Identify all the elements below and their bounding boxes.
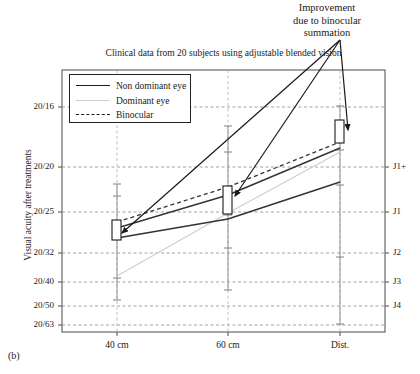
right-axis-tick-label: J1: [393, 206, 401, 216]
plot-area: [0, 0, 420, 374]
legend-label: Binocular: [116, 110, 153, 120]
y-axis-tick-label: 20/50: [10, 300, 54, 310]
data-marker-box: [335, 120, 344, 143]
annotation-arrow: [340, 40, 348, 130]
y-axis-tick-label: 20/40: [10, 276, 54, 286]
panel-label: (b): [8, 350, 20, 361]
legend-line-solid-icon: [76, 80, 110, 92]
legend-line-light-icon: [76, 95, 110, 107]
x-axis-tick-label: 60 cm: [198, 340, 258, 350]
series-line-dashed: [228, 142, 340, 187]
legend-item-binocular: Binocular: [76, 107, 153, 123]
right-axis-tick-label: J1+: [393, 161, 406, 171]
annotation-arrow: [235, 40, 340, 196]
right-axis-tick-label: J3: [393, 276, 401, 286]
legend: Non dominant eye Dominant eye Binocular: [69, 74, 191, 123]
y-axis-tick-label: 20/63: [10, 319, 54, 329]
data-marker-box: [223, 186, 232, 214]
legend-item-non-dominant-eye: Non dominant eye: [76, 78, 186, 94]
series-line-dashed: [117, 187, 228, 222]
right-axis-tick-label: J2: [393, 247, 401, 257]
legend-label: Dominant eye: [116, 96, 170, 106]
y-axis-tick-label: 20/32: [10, 247, 54, 257]
y-axis-tick-label: 20/16: [10, 101, 54, 111]
figure-panel: Improvement due to binocular summation C…: [0, 0, 420, 374]
right-axis-tick-label: J4: [393, 300, 401, 310]
x-axis-tick-label: 40 cm: [87, 340, 147, 350]
legend-label: Non dominant eye: [116, 81, 186, 91]
series-line-solid: [117, 219, 228, 238]
x-axis-tick-label: Dist.: [310, 340, 370, 350]
data-marker-box: [112, 220, 121, 240]
y-axis-tick-label: 20/20: [10, 161, 54, 171]
y-axis-tick-label: 20/25: [10, 206, 54, 216]
legend-line-dashed-icon: [76, 109, 110, 121]
